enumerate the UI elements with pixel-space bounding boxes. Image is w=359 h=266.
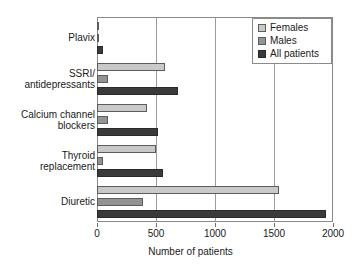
bar-females-3 [97, 145, 156, 153]
x-tick-500 [156, 223, 157, 227]
legend-swatch-all-patients-icon [258, 50, 266, 58]
bar-all-patients-1 [97, 87, 178, 95]
bar-males-3 [97, 157, 103, 165]
bar-females-4 [97, 186, 279, 194]
legend-swatch-males-icon [258, 37, 266, 45]
x-tick-2000 [333, 223, 334, 227]
bar-males-2 [97, 116, 108, 124]
x-tick-label-0: 0 [94, 228, 100, 239]
bar-females-1 [97, 63, 165, 71]
category-label-1: SSRI/ antidepressants [24, 67, 95, 90]
bar-females-0 [97, 22, 99, 30]
category-label-0: Plavix [68, 32, 95, 44]
bar-all-patients-3 [97, 169, 163, 177]
legend-label-females: Females [270, 23, 308, 33]
x-axis-title-text: Number of patients [126, 246, 233, 257]
x-tick-label-2000: 2000 [322, 228, 344, 239]
legend-label-all-patients: All patients [270, 49, 319, 59]
bar-all-patients-2 [97, 128, 158, 136]
x-tick-label-1500: 1500 [263, 228, 285, 239]
legend-swatch-females-icon [258, 24, 266, 32]
legend-item-all-patients[interactable]: All patients [258, 48, 327, 60]
bar-males-1 [97, 75, 108, 83]
legend-item-males[interactable]: Males [258, 35, 327, 47]
legend-label-males: Males [270, 36, 297, 46]
bar-chart: PlavixSSRI/ antidepressantsCalcium chann… [0, 0, 359, 266]
x-tick-label-500: 500 [148, 228, 165, 239]
legend: Females Males All patients [252, 18, 332, 64]
bar-males-0 [97, 34, 99, 42]
category-label-4: Diuretic [61, 196, 95, 208]
category-label-3: Thyroid replacement [40, 149, 95, 172]
x-tick-0 [97, 223, 98, 227]
bar-females-2 [97, 104, 147, 112]
x-tick-1000 [215, 223, 216, 227]
legend-item-females[interactable]: Females [258, 22, 327, 34]
category-label-2: Calcium channel blockers [21, 108, 95, 131]
bar-all-patients-0 [97, 46, 103, 54]
bar-males-4 [97, 198, 143, 206]
x-axis-title: Number of patients [0, 246, 359, 257]
x-tick-label-1000: 1000 [204, 228, 226, 239]
bar-all-patients-4 [97, 210, 326, 218]
x-tick-1500 [274, 223, 275, 227]
